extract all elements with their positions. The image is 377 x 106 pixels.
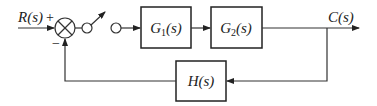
block-diagram: R(s) + − G1(s) G2(s) C(s) H(s)	[0, 0, 377, 106]
block-g2: G2(s)	[211, 7, 262, 48]
sampling-switch	[82, 12, 121, 33]
plus-sign: +	[46, 10, 54, 25]
output-label: C(s)	[328, 9, 354, 26]
summing-junction	[55, 18, 75, 38]
block-h: H(s)	[176, 61, 226, 101]
block-g1: G1(s)	[141, 7, 191, 48]
svg-text:G2(s): G2(s)	[220, 20, 252, 38]
minus-sign: −	[52, 36, 60, 51]
svg-text:H(s): H(s)	[187, 73, 215, 90]
input-label: R(s)	[17, 9, 43, 26]
svg-text:G1(s): G1(s)	[150, 20, 182, 38]
